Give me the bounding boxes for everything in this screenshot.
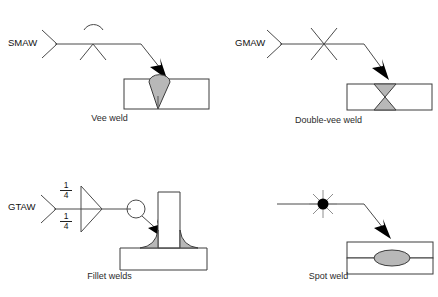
- weld-nugget-spot: [374, 250, 410, 266]
- weld-bead-fillet-right: [180, 230, 198, 248]
- panel-double-vee-weld: GMAW Double-vee weld: [219, 0, 438, 148]
- panel-fillet-welds: GTAW 1 4 1 4: [0, 170, 219, 297]
- caption-vee-weld: Vee weld: [0, 113, 219, 123]
- workpiece-base-plate: [120, 248, 207, 270]
- vee-weld-drawing: [0, 0, 219, 148]
- tail-open-v-icon: [41, 195, 56, 223]
- contour-arc-icon: [84, 25, 103, 30]
- vee-groove-above-icon: [311, 28, 337, 44]
- spot-weld-starburst-icon: [309, 190, 337, 218]
- caption-fillet-welds: Fillet welds: [0, 271, 219, 281]
- arrowhead-icon: [374, 219, 391, 239]
- vee-groove-below-icon: [311, 44, 337, 60]
- panel-vee-weld: SMAW Vee weld: [0, 0, 219, 148]
- arrowhead-icon: [372, 59, 389, 80]
- tail-open-v-icon: [42, 30, 57, 58]
- double-vee-weld-drawing: [219, 0, 438, 148]
- welding-symbols-diagram: SMAW Vee weld GMAW: [0, 0, 438, 297]
- spot-weld-symbol-dot: [318, 199, 329, 210]
- tail-open-v-icon: [267, 30, 282, 58]
- caption-double-vee-weld: Double-vee weld: [219, 115, 438, 125]
- caption-spot-weld: Spot weld: [219, 271, 438, 281]
- vee-groove-symbol-icon: [80, 44, 106, 60]
- workpiece-web-plate: [158, 192, 180, 248]
- panel-spot-weld: Spot weld: [219, 170, 438, 297]
